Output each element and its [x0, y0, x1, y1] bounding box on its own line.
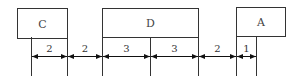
- box-label: C: [38, 18, 46, 31]
- dimension-value: 2: [82, 43, 88, 54]
- dimension-value: 1: [243, 43, 249, 54]
- dimension-5: 1: [237, 43, 256, 57]
- dimension-diagram: CDA 223321 C D A: [0, 0, 302, 81]
- dimension-4: 2: [199, 43, 236, 57]
- box-a: A: [237, 8, 286, 37]
- dimension-value: 3: [123, 43, 129, 54]
- dimension-3: 3: [151, 43, 198, 57]
- diagram-canvas: CDA 223321: [0, 0, 302, 81]
- box-d: D: [103, 9, 199, 38]
- dimension-value: 3: [171, 43, 177, 54]
- dimension-2: 3: [103, 43, 150, 57]
- box-c: C: [18, 9, 68, 39]
- dimension-0: 2: [32, 43, 67, 57]
- box-label: A: [256, 16, 266, 29]
- dimension-value: 2: [46, 43, 52, 54]
- dimension-1: 2: [68, 43, 102, 57]
- dimension-value: 2: [214, 43, 220, 54]
- box-label: D: [146, 17, 155, 30]
